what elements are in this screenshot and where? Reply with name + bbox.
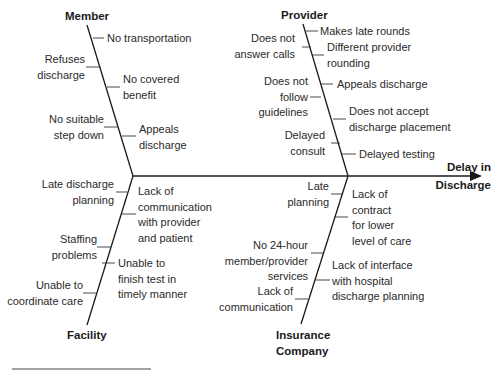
cause-member-4: No suitable step down [49, 112, 104, 143]
cause-provider-4: Does not follow guidelines [258, 74, 308, 121]
cause-facility-2: Lack of communication with provider and … [138, 184, 212, 246]
category-member-label: Member [65, 9, 109, 25]
cause-member-5: Appeals discharge [139, 122, 187, 153]
cause-provider-6: Does not accept discharge placement [349, 104, 451, 135]
cause-provider-8: Delayed testing [359, 147, 435, 163]
insurance-label-line2: Company [276, 344, 330, 360]
cause-member-2: Refuses discharge [37, 52, 85, 83]
cause-facility-5: Unable to coordinate care [7, 278, 83, 309]
cause-insurance-1: Late planning [287, 179, 329, 210]
cause-provider-2: Does not answer calls [234, 31, 295, 62]
cause-provider-1: Makes late rounds [320, 24, 410, 40]
category-insurance-label: Insurance Company [276, 328, 330, 359]
category-facility-label: Facility [67, 328, 107, 344]
effect-line2: Discharge [435, 178, 491, 194]
cause-insurance-2: Lack of contract for lower level of care [352, 187, 411, 249]
cause-insurance-5: Lack of communication [219, 284, 293, 315]
cause-member-1: No transportation [107, 31, 191, 47]
cause-provider-7: Delayed consult [285, 128, 325, 159]
cause-provider-5: Appeals discharge [337, 77, 428, 93]
effect-label: Delay in Discharge [435, 160, 491, 193]
cause-provider-3: Different provider rounding [327, 40, 411, 71]
cause-member-3: No covered benefit [123, 72, 179, 103]
cause-insurance-3: No 24-hour member/provider services [225, 238, 308, 285]
insurance-label-line1: Insurance [276, 328, 330, 344]
effect-line1: Delay in [435, 160, 491, 176]
cause-facility-1: Late discharge planning [42, 177, 114, 208]
cause-insurance-4: Lack of interface with hospital discharg… [332, 258, 424, 305]
cause-facility-3: Staffing problems [52, 232, 97, 263]
category-provider-label: Provider [281, 8, 328, 24]
cause-facility-4: Unable to finish test in timely manner [118, 256, 187, 303]
